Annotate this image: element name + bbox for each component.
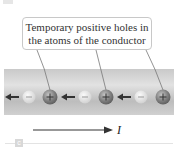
current-arrow <box>33 127 113 134</box>
negative-charge <box>135 91 148 104</box>
positive-charge <box>43 90 58 105</box>
callout-box: Temporary positive holes in the atoms of… <box>22 17 152 50</box>
callout-text: Temporary positive holes in the atoms of… <box>23 21 151 47</box>
negative-charge <box>79 91 92 104</box>
positive-charge <box>156 90 171 105</box>
negative-charge <box>23 91 36 104</box>
callout-line-1: Temporary positive holes in <box>23 21 151 34</box>
callout-line-2: the atoms of the conductor <box>23 34 151 47</box>
positive-charge <box>99 90 114 105</box>
current-label: I <box>117 123 121 138</box>
divider-line <box>5 143 173 144</box>
part-label: c <box>15 139 23 147</box>
